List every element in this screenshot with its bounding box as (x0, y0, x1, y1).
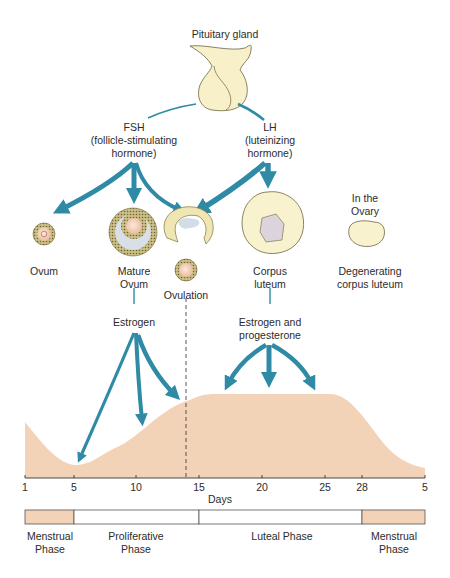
phase-1-line-1: Proliferative (108, 530, 163, 543)
pituitary-gland-label: Pituitary gland (170, 28, 280, 41)
in-the-ovary-label: In the Ovary (340, 192, 390, 218)
phase-0-line-2: Phase (27, 543, 73, 556)
lh-line-3: hormone) (225, 147, 315, 160)
phase-label-menstrual-1: Menstrual Phase (27, 530, 73, 556)
endometrium-area (25, 394, 425, 478)
estrogen-progesterone-label: Estrogen and progesterone (225, 316, 315, 342)
x-tick-28: 28 (356, 481, 368, 493)
x-tick-5: 5 (71, 481, 77, 493)
fsh-arrows (60, 163, 180, 210)
degenerating-line-1: Degenerating (325, 265, 415, 278)
lh-line-2: (luteinizing (225, 134, 315, 147)
fsh-line-1: FSH (84, 121, 184, 134)
fsh-line-3: hormone) (84, 147, 184, 160)
phase-1-line-2: Phase (108, 543, 163, 556)
mature-ovum-label: Mature Ovum (108, 265, 160, 291)
ovum-icon (33, 223, 55, 245)
corpus-luteum-icon (242, 192, 304, 254)
corpus-luteum-label: Corpus luteum (243, 265, 297, 291)
phase-3-line-1: Menstrual (371, 530, 417, 543)
ovum-label: Ovum (24, 265, 64, 278)
corpus-luteum-line-1: Corpus (243, 265, 297, 278)
phase-3-line-2: Phase (371, 543, 417, 556)
x-tick-1: 1 (22, 481, 28, 493)
x-tick-5-next: 5 (422, 481, 428, 493)
mature-follicle-icon (109, 208, 157, 256)
x-tick-15: 15 (193, 481, 205, 493)
x-axis-title: Days (200, 493, 240, 506)
ovulation-label: Ovulation (160, 289, 212, 302)
phase-0-line-1: Menstrual (27, 530, 73, 543)
lh-label: LH (luteinizing hormone) (225, 121, 315, 160)
mature-ovum-line-1: Mature (108, 265, 160, 278)
lh-line (238, 104, 264, 120)
mature-ovum-line-2: Ovum (108, 278, 160, 291)
est-prog-line-2: progesterone (225, 329, 315, 342)
pituitary-gland-icon (190, 45, 251, 110)
x-tick-10: 10 (130, 481, 142, 493)
fsh-label: FSH (follicle-stimulating hormone) (84, 121, 184, 160)
est-prog-line-1: Estrogen and (225, 316, 315, 329)
fsh-line-2: (follicle-stimulating (84, 134, 184, 147)
phase-label-proliferative: Proliferative Phase (108, 530, 163, 556)
phase-label-menstrual-2: Menstrual Phase (371, 530, 417, 556)
phase-bar (25, 510, 425, 524)
phase-label-luteal: Luteal Phase (251, 530, 312, 543)
degenerating-corpus-luteum-label: Degenerating corpus luteum (325, 265, 415, 291)
x-tick-25: 25 (319, 481, 331, 493)
in-ovary-line-2: Ovary (340, 205, 390, 218)
estrogen-progesterone-arrows (228, 345, 312, 384)
fsh-line (148, 104, 196, 118)
degenerating-line-2: corpus luteum (325, 278, 415, 291)
corpus-luteum-line-2: luteum (243, 278, 297, 291)
in-ovary-line-1: In the (340, 192, 390, 205)
lh-line-1: LH (225, 121, 315, 134)
ovulation-follicle-icon (164, 207, 213, 281)
degenerating-corpus-luteum-icon (349, 221, 385, 247)
estrogen-label: Estrogen (104, 316, 164, 329)
phase-2-line-1: Luteal Phase (251, 530, 312, 543)
x-tick-20: 20 (256, 481, 268, 493)
